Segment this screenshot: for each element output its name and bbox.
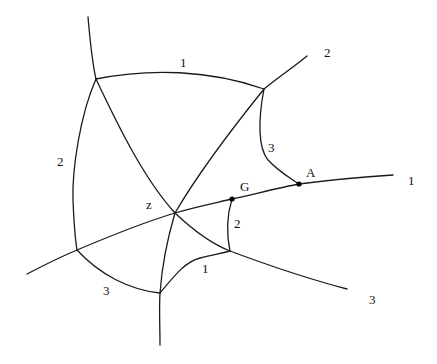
curve-bottom-1	[160, 251, 230, 293]
curve-top-arc-1	[96, 72, 264, 89]
curve-network-diagram: 1 2 3 A 1 2 z G 2 1 3 3	[0, 0, 437, 364]
label-top-1: 1	[180, 55, 187, 70]
label-left-2: 2	[57, 154, 64, 169]
label-bottom-left-3: 3	[103, 283, 110, 298]
curve-long-horizontal	[27, 184, 299, 274]
label-bottom-1: 1	[202, 261, 209, 276]
curve-diagonal-to-3	[96, 79, 347, 289]
point-G	[229, 196, 234, 201]
curve-bottom-left-3	[77, 250, 160, 293]
point-A	[296, 181, 301, 186]
label-right-1: 1	[408, 173, 415, 188]
label-z: z	[146, 197, 152, 212]
label-A: A	[306, 165, 316, 180]
label-right-3: 3	[268, 140, 275, 155]
curve-G-2	[228, 199, 232, 251]
label-G-2: 2	[234, 216, 241, 231]
curve-right-3	[260, 89, 299, 184]
curve-left-arc-2	[73, 79, 96, 250]
curve-top-right-stem-2	[264, 56, 307, 89]
curve-top-left-stem	[88, 17, 96, 79]
label-G: G	[240, 179, 249, 194]
label-top-right-2: 2	[324, 45, 331, 60]
label-bottom-right-3: 3	[369, 292, 376, 307]
